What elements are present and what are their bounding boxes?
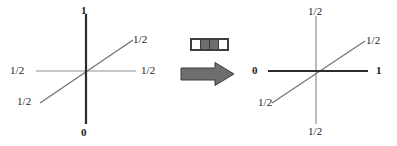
left-label-diagonal-lower-left: 1/2 <box>17 96 31 107</box>
right-label-top: 1/2 <box>308 6 322 17</box>
left-label-horizontal-left: 1/2 <box>10 65 24 76</box>
right-diagram: 1/2 1/2 0 1 1/2 1/2 <box>240 0 397 146</box>
right-label-diagonal-lower-left: 1/2 <box>258 97 272 108</box>
left-diagram: 1 0 1/2 1/2 1/2 1/2 <box>0 0 175 146</box>
right-label-horizontal-right: 1 <box>376 65 382 76</box>
cell-4 <box>219 40 227 49</box>
left-label-diagonal-upper-right: 1/2 <box>133 34 147 45</box>
cell-1 <box>192 40 200 49</box>
cell-2 <box>201 40 209 49</box>
left-label-horizontal-right: 1/2 <box>141 65 155 76</box>
cell-strip <box>190 38 229 51</box>
right-label-diagonal-upper-right: 1/2 <box>366 35 380 46</box>
left-label-top: 1 <box>81 5 87 16</box>
right-label-horizontal-left: 0 <box>252 65 258 76</box>
left-label-bottom: 0 <box>81 127 87 138</box>
cell-3 <box>210 40 218 49</box>
right-label-bottom: 1/2 <box>308 126 322 137</box>
figure-root: 1 0 1/2 1/2 1/2 1/2 1/2 1/2 0 1 <box>0 0 397 146</box>
right-arrow-icon <box>179 61 237 87</box>
transform-operator <box>175 0 240 146</box>
